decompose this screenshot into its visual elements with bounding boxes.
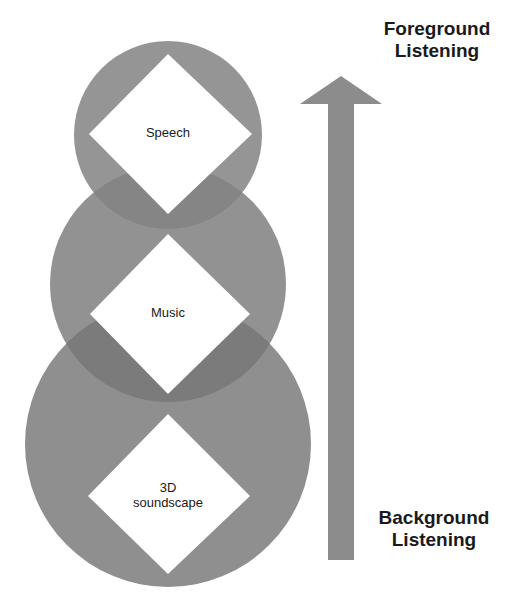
soundscape-label-line2: soundscape	[108, 496, 228, 511]
foreground-listening-label: Foreground Listening	[362, 18, 512, 62]
foreground-line2: Listening	[362, 40, 512, 62]
soundscape-label: 3D soundscape	[108, 481, 228, 511]
background-line1: Background	[358, 507, 510, 529]
background-line2: Listening	[358, 529, 510, 551]
music-label: Music	[118, 306, 218, 321]
listening-arrow-icon	[300, 76, 382, 560]
foreground-line1: Foreground	[362, 18, 512, 40]
soundscape-label-line1: 3D	[108, 481, 228, 496]
background-listening-label: Background Listening	[358, 507, 510, 551]
speech-label: Speech	[118, 126, 218, 141]
